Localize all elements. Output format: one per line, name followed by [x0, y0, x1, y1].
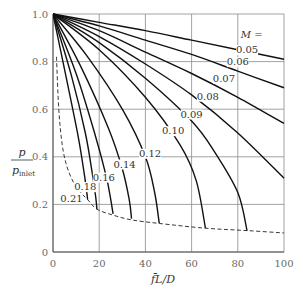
y-tick-label: 0.8: [32, 56, 48, 67]
y-axis-label-numerator: p: [18, 146, 25, 159]
curve-label: 0.14: [113, 159, 135, 170]
y-tick-label: 0.6: [32, 104, 48, 115]
curve-label: 0.21: [60, 193, 82, 204]
curve-label: 0.18: [74, 181, 96, 192]
curve-label: 0.10: [162, 125, 184, 136]
x-axis-label: f̄L/D: [150, 273, 175, 286]
x-tick-label: 0: [50, 258, 56, 269]
y-axis-label-denominator: pinlet: [12, 164, 35, 178]
curve-label: 0.12: [139, 148, 161, 159]
curve-label: 0.06: [227, 56, 249, 67]
curve-label: 0.05: [236, 44, 258, 55]
y-tick-label: 0: [42, 247, 48, 258]
mach-curve-0.12: [53, 14, 159, 223]
y-tick-label: 1.0: [32, 9, 48, 20]
mach-legend-header: M =: [240, 29, 263, 40]
fanno-flow-chart: 02040608010000.20.40.60.81.0 M =0.050.06…: [0, 0, 303, 298]
curve-label: 0.08: [197, 91, 219, 102]
x-tick-label: 40: [139, 258, 152, 269]
curve-label: 0.07: [213, 73, 235, 84]
x-tick-label: 80: [231, 258, 244, 269]
y-tick-label: 0.2: [32, 199, 48, 210]
y-tick-label: 0.4: [32, 151, 48, 162]
x-tick-label: 100: [274, 258, 293, 269]
x-tick-label: 60: [185, 258, 198, 269]
mach-curve-0.21: [53, 14, 88, 200]
curve-label: 0.09: [180, 109, 202, 120]
x-tick-label: 20: [93, 258, 106, 269]
